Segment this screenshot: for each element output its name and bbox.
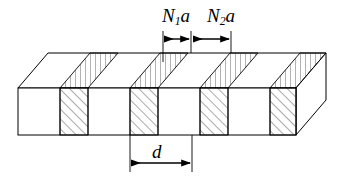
- label-n2a: N2a: [207, 6, 235, 28]
- front-band-hatched-2: [130, 88, 158, 135]
- label-n2a-base: N: [207, 5, 220, 26]
- block-top-face: [18, 53, 326, 88]
- front-band-hatched-1: [60, 88, 88, 135]
- label-n1a-suffix: a: [181, 5, 191, 26]
- block-front-face: [18, 88, 296, 135]
- label-period-d: d: [152, 142, 162, 161]
- label-n1a-base: N: [162, 5, 175, 26]
- label-n2a-suffix: a: [226, 5, 236, 26]
- front-band-hatched-3: [200, 88, 228, 135]
- figure-root: N1a N2a d: [0, 0, 342, 180]
- label-n1a: N1a: [162, 6, 190, 28]
- front-band-hatched-4: [270, 88, 296, 135]
